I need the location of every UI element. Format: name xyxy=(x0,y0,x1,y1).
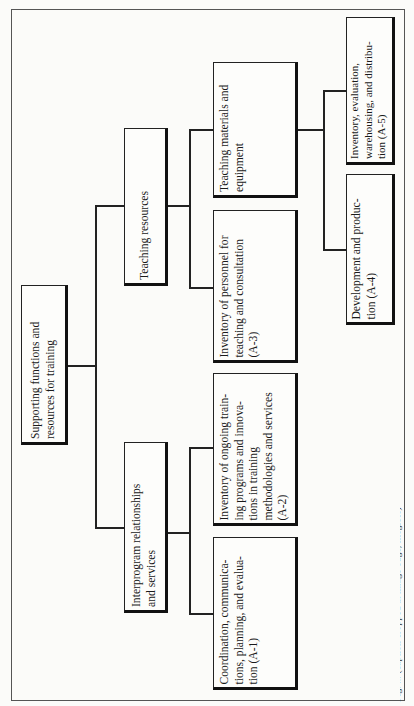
node-a5-inventory: Inventory, evaluation, warehousing, and … xyxy=(346,17,395,165)
node-a3-label: Inventory of personnel for teaching and … xyxy=(217,214,292,357)
figure-caption-text: Fig. ... (caption cropped at image edge,… xyxy=(400,507,402,702)
connector-to-materials xyxy=(189,129,213,131)
connector-to-a1 xyxy=(189,613,213,615)
node-root: Supporting functions and resources for t… xyxy=(21,285,68,445)
connector-interprogram-out xyxy=(168,532,190,534)
node-interprogram: Interprogram relationships and services xyxy=(124,442,168,613)
connector-materials-out xyxy=(298,129,324,131)
connector-teaching-spine xyxy=(189,129,191,288)
connector-teaching-out xyxy=(168,205,190,207)
node-a5-label: Inventory, evaluation, warehousing, and … xyxy=(348,21,392,159)
node-teaching-materials-label: Teaching materials and equipment xyxy=(217,66,292,192)
connector-interprogram-spine xyxy=(189,447,191,614)
node-teaching-materials: Teaching materials and equipment xyxy=(213,62,298,198)
node-interprogram-label: Interprogram relationships and services xyxy=(130,447,159,607)
node-a4-development: Development and produc- tion (A-4) xyxy=(346,174,395,325)
connector-to-a2 xyxy=(189,447,213,449)
connector-materials-spine xyxy=(323,90,325,250)
connector-to-teaching-resources xyxy=(95,205,124,207)
node-a1-coordination: Coordination, communica- tions, planning… xyxy=(213,537,298,690)
node-a2-ongoing-programs: Inventory of ongoing train- ing programs… xyxy=(213,373,298,526)
connector-to-interprogram xyxy=(95,527,124,529)
node-root-label: Supporting functions and resources for t… xyxy=(29,289,58,439)
connector-to-personnel xyxy=(189,287,213,289)
connector-root xyxy=(68,365,96,367)
connector-to-a4 xyxy=(323,249,346,251)
node-a4-label: Development and produc- tion (A-4) xyxy=(350,178,390,319)
figure-caption: Fig. ... (caption cropped at image edge,… xyxy=(400,470,414,706)
connector-to-a5 xyxy=(323,90,346,92)
node-a1-label: Coordination, communica- tions, planning… xyxy=(217,541,292,684)
node-a3-personnel: Inventory of personnel for teaching and … xyxy=(213,210,298,363)
node-teaching-resources: Teaching resources xyxy=(124,128,168,286)
connector-level1-spine xyxy=(95,205,97,528)
node-teaching-resources-label: Teaching resources xyxy=(138,132,153,280)
node-a2-label: Inventory of ongoing train- ing programs… xyxy=(217,377,292,520)
